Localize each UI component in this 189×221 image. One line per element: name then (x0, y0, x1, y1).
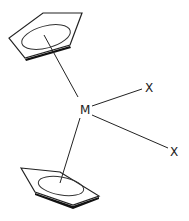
ligand-x-upper: X (145, 81, 153, 95)
bond-x-upper (92, 89, 142, 106)
bottom-cyclopentadienyl-ring (21, 168, 99, 209)
ligand-x-lower: X (170, 145, 178, 159)
bond-x-lower (92, 115, 168, 148)
bond-top-ring (44, 35, 78, 97)
metal-label: M (80, 103, 90, 117)
metallocene-diagram: M X X (0, 0, 189, 221)
